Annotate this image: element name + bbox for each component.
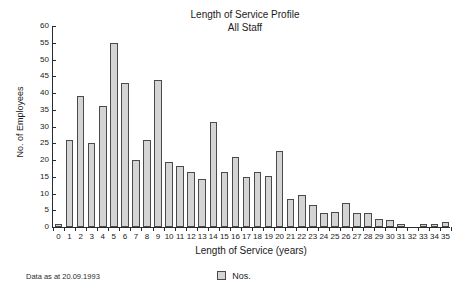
y-tick-mark	[52, 143, 56, 144]
y-tick-label: 60	[25, 21, 49, 30]
x-tick-mark	[64, 227, 65, 231]
y-tick-mark	[52, 26, 56, 27]
x-tick-mark	[208, 227, 209, 231]
y-axis-tick: 60	[52, 26, 56, 27]
x-tick-mark	[318, 227, 319, 231]
bar	[442, 222, 450, 227]
x-tick-mark	[53, 227, 54, 231]
bar	[397, 224, 405, 227]
x-tick-mark	[164, 227, 165, 231]
y-tick-label: 40	[25, 88, 49, 97]
y-axis-tick: 5	[52, 210, 56, 211]
legend-entry: Nos.	[217, 266, 251, 284]
y-tick-label: 50	[25, 55, 49, 64]
legend-label: Nos.	[232, 271, 251, 281]
y-axis-tick: 10	[52, 194, 56, 195]
y-tick-mark	[52, 93, 56, 94]
y-axis-tick: 30	[52, 127, 56, 128]
bar	[132, 160, 140, 227]
x-tick-mark	[407, 227, 408, 231]
y-tick-label: 30	[25, 122, 49, 131]
y-tick-mark	[52, 127, 56, 128]
chart-title: Length of Service Profile	[150, 8, 340, 21]
y-tick-mark	[52, 43, 56, 44]
x-tick-mark	[440, 227, 441, 231]
y-tick-label: 0	[25, 222, 49, 231]
y-axis-tick: 35	[52, 110, 56, 111]
y-axis-tick: 40	[52, 93, 56, 94]
x-tick-mark	[385, 227, 386, 231]
x-axis-label: Length of Service (years)	[52, 245, 450, 256]
chart-figure: Length of Service Profile All Staff No. …	[0, 0, 468, 299]
x-tick-mark	[274, 227, 275, 231]
y-tick-label: 5	[25, 205, 49, 214]
bar	[187, 172, 195, 227]
x-tick-mark	[418, 227, 419, 231]
y-tick-mark	[52, 160, 56, 161]
y-tick-label: 55	[25, 38, 49, 47]
bar	[420, 224, 428, 227]
x-tick-mark	[363, 227, 364, 231]
x-axis-line	[52, 227, 450, 228]
bar	[353, 213, 361, 227]
x-tick-mark	[130, 227, 131, 231]
y-tick-mark	[52, 76, 56, 77]
bar	[265, 176, 273, 227]
x-tick-mark	[429, 227, 430, 231]
x-tick-mark	[197, 227, 198, 231]
y-axis-tick: 20	[52, 160, 56, 161]
bar	[331, 212, 339, 227]
x-tick-mark	[329, 227, 330, 231]
bar	[221, 172, 229, 227]
bar	[364, 213, 372, 227]
x-tick-mark	[141, 227, 142, 231]
bar	[243, 177, 251, 227]
bar	[232, 157, 240, 227]
x-tick-mark	[340, 227, 341, 231]
y-tick-mark	[52, 60, 56, 61]
bar	[375, 219, 383, 227]
x-tick-mark	[285, 227, 286, 231]
y-tick-mark	[52, 194, 56, 195]
x-tick-mark	[307, 227, 308, 231]
y-tick-mark	[52, 177, 56, 178]
y-axis-tick: 15	[52, 177, 56, 178]
bar	[320, 213, 328, 227]
x-tick-mark	[230, 227, 231, 231]
bar	[165, 162, 173, 227]
x-tick-mark	[296, 227, 297, 231]
bar	[55, 224, 63, 227]
x-tick-mark	[241, 227, 242, 231]
y-tick-mark	[52, 110, 56, 111]
x-tick-mark	[75, 227, 76, 231]
x-tick-mark	[252, 227, 253, 231]
bar	[276, 151, 284, 227]
bar	[176, 166, 184, 227]
bar	[77, 96, 85, 227]
bar	[99, 106, 107, 227]
bar	[431, 224, 439, 227]
y-axis-tick: 55	[52, 43, 56, 44]
x-tick-mark	[153, 227, 154, 231]
y-axis-tick: 45	[52, 76, 56, 77]
y-tick-mark	[52, 210, 56, 211]
bar	[110, 43, 118, 227]
y-tick-label: 25	[25, 138, 49, 147]
footnote-text: Data as at 20.09.1993	[26, 272, 100, 281]
bar	[309, 205, 317, 227]
bar	[121, 83, 129, 227]
x-tick-mark	[175, 227, 176, 231]
plot-area: 051015202530354045505560 012345678910111…	[52, 26, 450, 228]
bar	[143, 140, 151, 227]
y-axis-label: No. of Employees	[15, 57, 25, 187]
bar	[88, 143, 96, 227]
x-tick-mark	[451, 227, 452, 231]
y-axis-tick: 50	[52, 60, 56, 61]
x-tick-mark	[263, 227, 264, 231]
y-tick-label: 45	[25, 71, 49, 80]
y-tick-label: 15	[25, 172, 49, 181]
bar	[210, 122, 218, 227]
bar	[254, 172, 262, 227]
x-tick-mark	[396, 227, 397, 231]
bar	[66, 140, 74, 227]
